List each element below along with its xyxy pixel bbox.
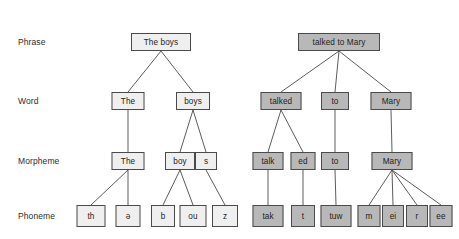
tree-node-r-w-to[interactable]: to (321, 92, 349, 110)
tree-edges (0, 0, 459, 239)
tree-node-r-p-t[interactable]: t (291, 205, 315, 227)
tree-node-l-m-boy[interactable]: boy (165, 152, 195, 170)
tree-node-r-p-ei[interactable]: ei (382, 205, 404, 227)
edge-l-w-boys-to-l-m-boy (180, 110, 193, 152)
edge-r-m-to-to-r-p-tuw (335, 170, 336, 205)
tree-node-l-p-b[interactable]: b (151, 205, 175, 227)
tree-node-l-p-th[interactable]: th (77, 205, 106, 227)
tree-node-r-m-talk[interactable]: talk (253, 152, 284, 170)
edge-r-m-mary-to-r-p-ei (392, 170, 393, 205)
tree-node-r-p-tak[interactable]: tak (253, 205, 284, 227)
edge-l-phrase-to-l-w-boys (161, 51, 193, 92)
edge-l-w-boys-to-l-m-s (193, 110, 206, 152)
tree-node-r-w-mary[interactable]: Mary (371, 92, 412, 110)
tree-node-r-m-ed[interactable]: ed (291, 152, 316, 170)
tree-node-r-p-tuw[interactable]: tuw (321, 205, 352, 227)
tree-node-l-p-ou[interactable]: ou (180, 205, 207, 227)
edge-r-w-talked-to-r-m-talk (268, 110, 281, 152)
edge-r-phrase-to-r-w-mary (339, 51, 391, 92)
diagram-canvas: PhraseWordMorphemePhoneme The boysTheboy… (0, 0, 459, 239)
edge-l-phrase-to-l-w-the (128, 51, 161, 92)
row-label-morpheme: Morpheme (18, 156, 59, 166)
tree-node-l-w-boys[interactable]: boys (176, 92, 210, 110)
edge-l-m-s-to-l-p-z (206, 170, 225, 205)
edge-r-phrase-to-r-w-to (335, 51, 339, 92)
tree-node-r-p-ee[interactable]: ee (430, 205, 453, 227)
edge-r-m-mary-to-r-p-m (369, 170, 392, 205)
tree-node-l-phrase[interactable]: The boys (131, 33, 191, 51)
edge-l-m-the-to-l-p-th (91, 170, 128, 205)
edge-r-m-mary-to-r-p-ee (392, 170, 441, 205)
tree-node-l-m-s[interactable]: s (195, 152, 217, 170)
edge-r-phrase-to-r-w-talked (281, 51, 339, 92)
row-label-phrase: Phrase (18, 37, 46, 47)
tree-node-r-w-talked[interactable]: talked (261, 92, 302, 110)
tree-node-r-p-m[interactable]: m (358, 205, 381, 227)
tree-node-r-m-to[interactable]: to (321, 152, 349, 170)
edge-r-m-mary-to-r-p-r (392, 170, 417, 205)
tree-node-l-p-z[interactable]: z (212, 205, 238, 227)
tree-node-r-m-mary[interactable]: Mary (372, 152, 413, 170)
tree-node-l-m-the[interactable]: The (112, 152, 145, 170)
tree-node-l-w-the[interactable]: The (112, 92, 145, 110)
tree-node-r-phrase[interactable]: talked to Mary (298, 33, 380, 51)
row-label-word: Word (18, 96, 39, 106)
edge-l-m-boy-to-l-p-ou (180, 170, 193, 205)
tree-node-r-p-r[interactable]: r (406, 205, 428, 227)
row-label-phoneme: Phoneme (18, 211, 55, 221)
edge-l-m-boy-to-l-p-b (163, 170, 180, 205)
edge-r-w-mary-to-r-m-mary (391, 110, 392, 152)
edge-r-w-talked-to-r-m-ed (281, 110, 303, 152)
tree-node-l-p-schwa[interactable]: ə (116, 205, 141, 227)
